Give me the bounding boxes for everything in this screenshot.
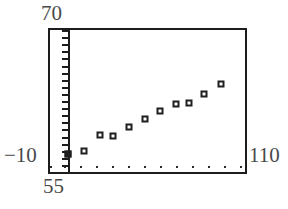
y-axis-tick (62, 129, 68, 131)
data-point (201, 90, 208, 97)
data-point (110, 132, 117, 139)
x-axis-tick-dot (240, 166, 242, 168)
x-axis-max-label: 110 (249, 145, 280, 166)
y-axis-tick (62, 101, 68, 103)
y-axis-tick (62, 58, 68, 60)
x-axis-tick-dot (50, 166, 52, 168)
scatter-plot-figure: 70 −10 55 110 (0, 0, 288, 209)
y-axis-tick (62, 80, 68, 82)
y-axis-tick (62, 87, 68, 89)
y-axis-tick (62, 137, 68, 139)
x-axis-tick-dot (80, 166, 82, 168)
y-axis-tick (62, 51, 68, 53)
x-axis-tick-dot (64, 166, 66, 168)
y-axis-tick (62, 30, 68, 32)
y-axis-min-label: −10 (4, 145, 37, 166)
x-axis-tick-dot (128, 166, 130, 168)
x-axis-tick-dot (176, 166, 178, 168)
y-axis-tick (62, 37, 68, 39)
x-axis-tick-dot (160, 166, 162, 168)
data-point (81, 148, 88, 155)
x-axis-tick-dot (112, 166, 114, 168)
y-axis-tick (62, 94, 68, 96)
x-axis-tick-dot (192, 166, 194, 168)
x-axis-tick-dot (96, 166, 98, 168)
y-axis-tick (62, 73, 68, 75)
y-axis-tick (62, 172, 68, 174)
x-axis-tick-dot (224, 166, 226, 168)
x-axis-tick-dot (144, 166, 146, 168)
data-point (172, 100, 179, 107)
data-point (141, 115, 148, 122)
y-axis-max-label: 70 (41, 3, 62, 24)
data-point (126, 123, 133, 130)
y-axis-tick (62, 158, 68, 160)
y-axis-tick (62, 108, 68, 110)
x-axis-min-label: 55 (43, 176, 64, 197)
x-axis-tick-dot (208, 166, 210, 168)
y-axis-tick (62, 115, 68, 117)
y-axis-tick (62, 44, 68, 46)
data-point (186, 99, 193, 106)
data-point (217, 80, 224, 87)
y-axis-tick (62, 144, 68, 146)
y-axis-tick (62, 122, 68, 124)
plot-area (50, 30, 245, 172)
plot-frame (48, 28, 247, 174)
data-point (96, 131, 103, 138)
data-point (157, 107, 164, 114)
data-point (64, 151, 71, 158)
y-axis-tick (62, 66, 68, 68)
